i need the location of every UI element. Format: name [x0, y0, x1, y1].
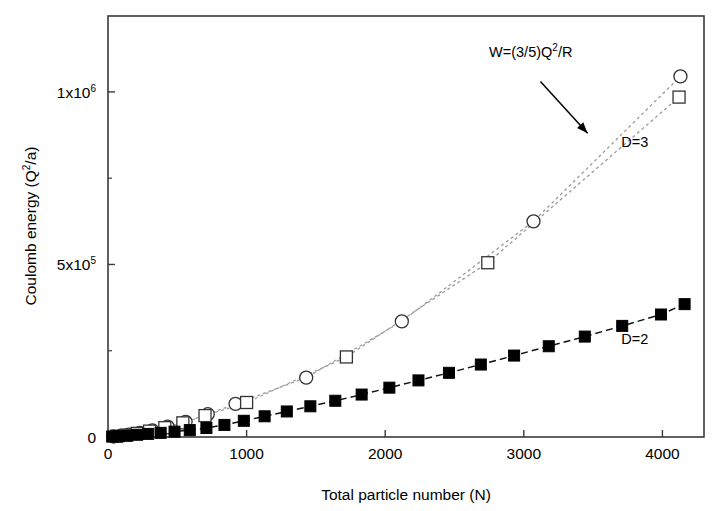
y-tick-label: 5x105 — [57, 255, 97, 273]
data-point-filled-square — [443, 367, 454, 378]
data-point-filled-square — [132, 429, 143, 440]
chart-annotations: W=(3/5)Q2/RD=3D=2 — [489, 42, 648, 346]
data-point-filled-square — [184, 425, 195, 436]
y-tick-label: 1x106 — [57, 83, 97, 101]
y-axis-title-text: Coulomb energy (Q2/a) — [21, 147, 39, 306]
data-point-filled-square — [413, 375, 424, 386]
data-point-filled-square — [330, 395, 341, 406]
data-point-filled-square — [259, 411, 270, 422]
data-point-filled-square — [656, 309, 667, 320]
data-point-open-square — [340, 351, 352, 363]
series-lines — [112, 76, 684, 436]
x-tick-label: 0 — [104, 445, 113, 462]
x-tick-label: 1000 — [229, 445, 264, 462]
data-point-filled-square — [169, 426, 180, 437]
data-point-filled-square — [305, 401, 316, 412]
plot-frame — [108, 16, 704, 437]
data-point-open-circle — [527, 215, 540, 228]
data-point-filled-square — [155, 427, 166, 438]
data-point-filled-square — [579, 331, 590, 342]
y-axis-title: Coulomb energy (Q2/a) — [21, 147, 39, 306]
data-point-filled-square — [219, 419, 230, 430]
y-tick-label: 0 — [87, 429, 96, 446]
data-point-filled-square — [509, 350, 520, 361]
annotation-series-label-d3: D=3 — [621, 134, 648, 150]
data-point-filled-square — [384, 382, 395, 393]
series-markers — [107, 70, 690, 443]
x-tick-label: 3000 — [507, 445, 542, 462]
x-tick-labels: 01000200030004000 — [104, 445, 680, 462]
data-point-filled-square — [281, 406, 292, 417]
annotation-formula: W=(3/5)Q2/R — [489, 42, 572, 60]
data-point-filled-square — [356, 389, 367, 400]
data-point-open-square — [199, 410, 211, 422]
x-axis-title: Total particle number (N) — [321, 486, 491, 503]
figure-container: 01000200030004000 05x1051x106 W=(3/5)Q2/… — [0, 0, 725, 511]
data-point-filled-square — [679, 299, 690, 310]
data-point-open-square — [673, 91, 685, 103]
data-point-filled-square — [201, 423, 212, 434]
y-tick-labels: 05x1051x106 — [57, 83, 97, 446]
annotation-series-label-d2: D=2 — [621, 331, 648, 347]
chart-svg: 01000200030004000 05x1051x106 W=(3/5)Q2/… — [0, 0, 725, 511]
series-line — [114, 76, 681, 436]
annotation-arrow — [540, 82, 587, 134]
x-tick-label: 2000 — [368, 445, 403, 462]
data-point-open-square — [241, 396, 253, 408]
data-point-filled-square — [238, 415, 249, 426]
data-point-filled-square — [617, 320, 628, 331]
x-tick-label: 4000 — [645, 445, 680, 462]
data-point-open-circle — [395, 315, 408, 328]
data-point-open-circle — [674, 70, 687, 83]
data-point-open-circle — [300, 371, 313, 384]
data-point-filled-square — [475, 359, 486, 370]
data-point-filled-square — [543, 341, 554, 352]
data-point-open-square — [482, 257, 494, 269]
data-point-filled-square — [143, 428, 154, 439]
